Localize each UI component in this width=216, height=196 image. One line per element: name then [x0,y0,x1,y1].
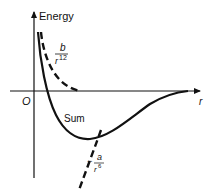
x-axis-label: r [199,96,203,107]
svg-text:b: b [60,42,66,53]
repulsive-curve [41,32,80,91]
svg-text:6: 6 [98,163,102,169]
sum-label: Sum [64,113,85,124]
energy-potential-diagram: Energy O r b r 12 Sum − a r 6 [0,0,216,196]
origin-label: O [22,95,31,107]
svg-text:r: r [94,165,97,174]
attractive-label: − a r 6 [87,152,104,174]
svg-text:−: − [87,156,92,166]
repulsive-label: b r 12 [55,42,68,66]
svg-text:a: a [97,152,102,162]
y-axis-label: Energy [39,10,74,22]
svg-text:12: 12 [59,54,67,61]
